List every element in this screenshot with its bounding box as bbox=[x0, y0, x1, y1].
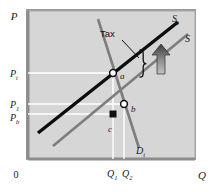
tick-sub-p-tax: t bbox=[16, 74, 18, 81]
origin-label: 0 bbox=[14, 169, 19, 180]
curve-base-supply: S bbox=[185, 33, 190, 44]
point-a-label: a bbox=[120, 71, 125, 81]
point-c-marker bbox=[110, 111, 116, 117]
supply-demand-chart: P Q 0 Pt P1 Pb Q1 Q2 St S bbox=[0, 0, 213, 192]
tax-annotation-label: Tax bbox=[100, 28, 115, 39]
tick-base-p-one: P bbox=[9, 99, 16, 110]
tick-sub-q-one: 1 bbox=[114, 174, 117, 181]
curve-sub-demand: t bbox=[143, 151, 145, 158]
curve-sub-supply-taxed: t bbox=[177, 19, 179, 26]
tick-base-p-buyer: P bbox=[9, 112, 16, 123]
tax-incidence-figure: P Q 0 Pt P1 Pb Q1 Q2 St S bbox=[0, 0, 213, 192]
point-b-label: b bbox=[131, 104, 136, 114]
point-a-marker bbox=[110, 70, 117, 77]
x-axis-label: Q bbox=[198, 169, 206, 181]
point-b-marker bbox=[121, 101, 128, 108]
point-c-label: c bbox=[108, 124, 112, 134]
curve-label-supply: S bbox=[185, 33, 190, 44]
tick-base-p-tax: P bbox=[9, 68, 16, 79]
tick-sub-p-one: 1 bbox=[16, 105, 19, 112]
y-axis-label: P bbox=[10, 10, 18, 22]
